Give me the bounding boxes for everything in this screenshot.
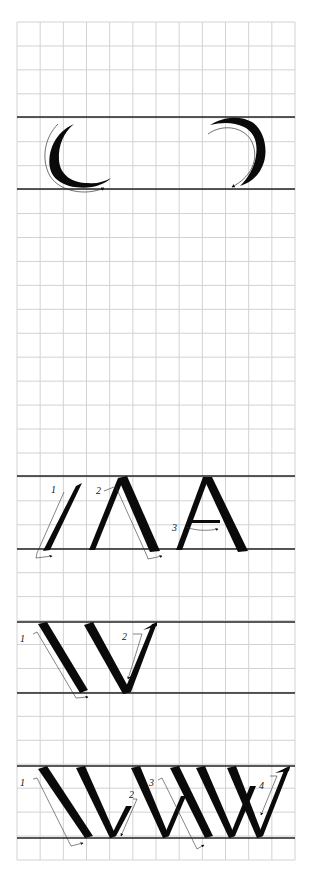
w-stroke-2-label: 2 <box>129 789 134 800</box>
w-v1-right <box>110 806 132 838</box>
letter-a-section: 1 2 3 <box>36 476 248 559</box>
a-stroke-2-left <box>89 478 124 550</box>
w-v2-right <box>163 796 186 838</box>
round-strokes-section <box>45 118 266 192</box>
left-arc-stroke <box>49 124 111 188</box>
v-right-stroke <box>123 623 157 694</box>
v-right-hook <box>143 622 157 630</box>
a-stroke-2-lead <box>104 487 114 491</box>
v-stroke-1-label: 1 <box>20 633 25 644</box>
a-stroke-1 <box>43 483 82 551</box>
a-full-left-leg <box>176 477 209 550</box>
w-stroke-3-label: 3 <box>148 777 154 788</box>
right-arc-stroke <box>210 118 266 186</box>
w-stroke-1-label: 1 <box>20 777 25 788</box>
a-stroke-3-label: 3 <box>171 522 177 533</box>
v-stroke-2-label: 2 <box>122 631 127 642</box>
w-final-right <box>257 767 290 838</box>
a-full-crossbar <box>190 520 220 523</box>
a-stroke-2-right <box>118 476 160 552</box>
w-stroke-4-label: 4 <box>259 780 264 791</box>
a-stroke-2-label: 2 <box>96 485 101 496</box>
w-final-mid2 <box>227 766 263 838</box>
practice-sheet: 1 2 3 1 2 1 2 <box>0 0 314 875</box>
a-stroke-1-label: 1 <box>51 484 56 495</box>
